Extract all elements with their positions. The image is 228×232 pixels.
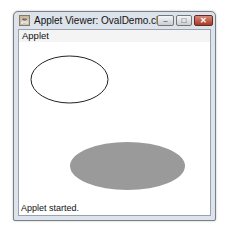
outlined-oval [31,56,108,103]
filled-oval [70,142,185,190]
oval-drawing-layer [0,0,228,232]
